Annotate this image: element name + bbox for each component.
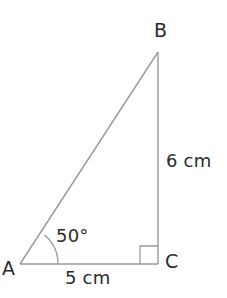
side-ab-line <box>20 52 158 264</box>
geometry-figure: A B C 50° 6 cm 5 cm <box>0 0 227 298</box>
vertex-label-b: B <box>154 21 167 40</box>
vertex-label-c: C <box>165 252 178 271</box>
angle-measure-label-a: 50° <box>56 227 89 245</box>
triangle-drawing <box>0 0 227 298</box>
right-angle-marker-at-c <box>140 246 158 264</box>
side-length-label-bc: 6 cm <box>166 152 211 170</box>
side-length-label-ac: 5 cm <box>65 269 110 287</box>
vertex-label-a: A <box>2 259 15 278</box>
